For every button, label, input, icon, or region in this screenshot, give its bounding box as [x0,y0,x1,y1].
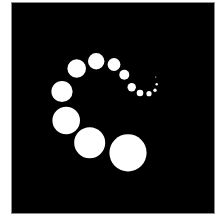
spiral-dot-13 [156,83,158,85]
spiral-dot-14 [155,76,156,77]
spiral-dot-10 [137,90,144,97]
spiral-dot-6 [88,53,104,69]
spiral-dot-4 [51,81,72,102]
spiral-dot-5 [67,59,86,78]
dot-spiral-graphic [0,0,222,220]
spiral-dots [51,53,157,171]
image-canvas [0,0,222,220]
spiral-dot-7 [108,58,121,71]
spiral-dot-11 [146,91,151,96]
spiral-dot-8 [119,70,129,80]
spiral-dot-1 [109,134,146,171]
spiral-dot-9 [128,83,136,91]
spiral-dot-3 [52,107,80,135]
spiral-dot-2 [74,127,105,158]
spiral-dot-12 [153,89,156,92]
